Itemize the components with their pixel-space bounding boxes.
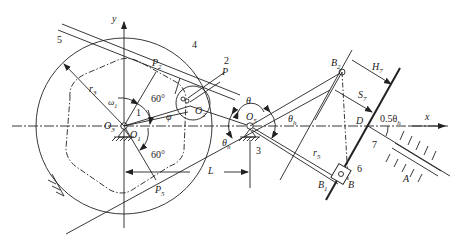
label-O5: O5 — [246, 112, 257, 125]
label-theta-h-right: θh — [288, 114, 296, 127]
label-link-4: 4 — [192, 40, 197, 50]
label-D: D — [356, 116, 363, 126]
label-A: A — [403, 174, 409, 184]
label-phi: φ — [166, 112, 172, 122]
label-L: L — [208, 166, 214, 176]
label-theta: θ — [246, 96, 251, 106]
label-P: P — [222, 67, 228, 77]
label-link-5: 5 — [57, 35, 62, 45]
label-link-2: 2 — [224, 56, 229, 66]
label-O3: O3 — [104, 121, 115, 134]
label-B: B — [348, 180, 354, 190]
label-link-6: 6 — [357, 164, 362, 174]
label-O1: O1 — [130, 130, 141, 143]
label-link-3: 3 — [256, 146, 261, 156]
label-y-axis: y — [112, 14, 116, 24]
label-P5: P5 — [155, 185, 165, 198]
label-x-axis: x — [425, 112, 429, 122]
mechanism-diagram: 5 y 4 2 P P2 r3 ω1 1 60° φ O3 O1 60° P5 … — [0, 0, 460, 240]
label-B1: B1 — [318, 180, 328, 193]
label-S7: S7 — [358, 90, 367, 103]
label-half-theta-h: 0.5θh — [380, 114, 401, 127]
label-angle-60-bottom: 60° — [151, 150, 165, 160]
label-link-7: 7 — [372, 140, 377, 150]
label-O2: O2 — [195, 106, 206, 119]
ground-hatch-left — [48, 174, 64, 196]
label-omega1: ω1 — [108, 98, 117, 109]
label-link-1: 1 — [136, 108, 141, 118]
label-H7: H7 — [372, 62, 383, 75]
label-B2: B2 — [331, 58, 341, 71]
label-r3: r3 — [89, 84, 96, 97]
label-P2: P2 — [152, 58, 162, 71]
label-angle-60-top: 60° — [151, 94, 165, 104]
ground-hatch-right — [386, 131, 436, 182]
label-r5: r5 — [313, 148, 320, 161]
label-theta-h-left: θh — [222, 138, 230, 151]
